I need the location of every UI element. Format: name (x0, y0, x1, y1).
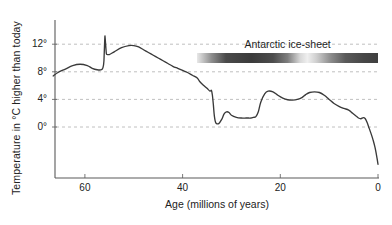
y-tick-label-8: 8° (21, 66, 47, 77)
y-tick-label-0: 0° (21, 121, 47, 132)
y-tick-label-12: 12° (21, 38, 47, 49)
antarctic-ice-sheet-label: Antarctic ice-sheet (197, 38, 378, 50)
axis-ticks (52, 44, 378, 178)
x-tick-label-60: 60 (70, 182, 100, 193)
x-tick-label-40: 40 (168, 182, 198, 193)
y-tick-label-4: 4° (21, 93, 47, 104)
x-tick-label-20: 20 (265, 182, 295, 193)
x-tick-label-0: 0 (363, 182, 392, 193)
temperature-vs-age-chart: Temperature in °C higher than today Age … (0, 0, 392, 225)
antarctic-ice-sheet-bar (197, 53, 378, 63)
